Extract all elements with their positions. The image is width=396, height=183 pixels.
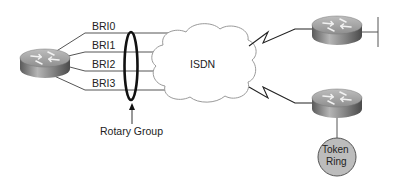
isdn-label: ISDN <box>190 59 215 70</box>
token-ring-label-line1: Token <box>322 145 349 155</box>
bri3-label: BRI3 <box>92 78 115 89</box>
token-ring-label-line2: Ring <box>326 157 347 167</box>
bri0-label: BRI0 <box>92 21 115 32</box>
bri2-label: BRI2 <box>92 59 115 70</box>
rotary-group-label: Rotary Group <box>100 126 163 137</box>
router-left-icon <box>20 49 70 78</box>
bri1-label: BRI1 <box>92 40 115 51</box>
bri1-link <box>64 52 160 57</box>
router-lower-right-icon <box>312 89 362 118</box>
serial-link-upper <box>249 29 312 46</box>
arrow-up-icon <box>129 103 135 124</box>
router-upper-right-icon <box>312 16 362 45</box>
serial-link-lower <box>249 87 312 103</box>
